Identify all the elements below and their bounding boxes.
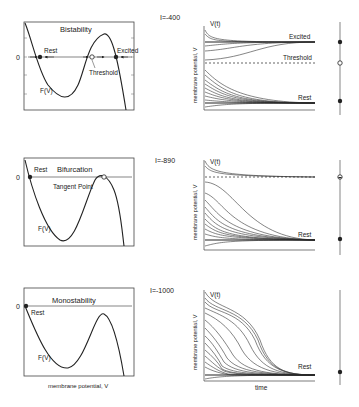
current-label: I=-890 [155, 157, 175, 164]
fv-curve [25, 306, 124, 376]
current-label: I=-400 [160, 14, 180, 21]
zero-label: 0 [16, 174, 20, 181]
label-excited-right: Excited [289, 33, 311, 40]
zero-label: 0 [16, 303, 20, 310]
vt-label: V(t) [210, 20, 220, 28]
row-bistability: 0 Bistability Rest Excited Threshold F(V… [16, 14, 342, 115]
label-threshold-right: Threshold [283, 54, 312, 61]
label-fv: F(V) [38, 354, 51, 362]
label-rest: Rest [44, 47, 58, 54]
vt-label: V(t) [210, 158, 220, 166]
label-rest: Rest [34, 166, 48, 173]
fv-curve [25, 23, 126, 110]
row-monostability: 0 Monostability Rest F(V) membrane poten… [16, 287, 342, 391]
label-tangent-point: Tangent Point [53, 183, 93, 191]
x-axis-label-time: time [255, 384, 268, 391]
stable-point-rest [28, 175, 32, 179]
label-fv: F(V) [38, 225, 51, 233]
row-bifurcation: 0 Bifurcation Rest Tangent Point F(V) I=… [16, 157, 342, 255]
stable-point-rest [24, 304, 28, 308]
label-rest-right: Rest [298, 231, 312, 238]
label-rest-right: Rest [298, 94, 312, 101]
label-rest: Rest [31, 309, 45, 316]
figure: 0 Bistability Rest Excited Threshold F(V… [0, 0, 359, 407]
stable-point-excited [114, 55, 118, 59]
phase-plot-frame [24, 22, 134, 110]
y-axis-label: membrane potential, V [192, 47, 198, 103]
current-label: I=-1000 [150, 287, 174, 294]
label-excited: Excited [117, 47, 139, 54]
unstable-point-threshold [90, 55, 94, 59]
zero-label: 0 [16, 54, 20, 61]
label-threshold: Threshold [89, 69, 118, 76]
plot-title: Monostability [52, 296, 96, 305]
label-rest-right: Rest [298, 363, 312, 370]
x-axis-label: membrane potential, V [48, 383, 108, 389]
label-fv: F(V) [40, 87, 53, 95]
y-axis-label: membrane potential, V [192, 184, 198, 240]
vt-label: V(t) [210, 291, 220, 299]
plot-title: Bifurcation [57, 165, 92, 174]
stable-point-rest [38, 55, 42, 59]
tangent-point [102, 175, 106, 179]
y-axis-label: membrane potential, V [192, 314, 198, 370]
plot-title: Bistability [60, 25, 92, 34]
